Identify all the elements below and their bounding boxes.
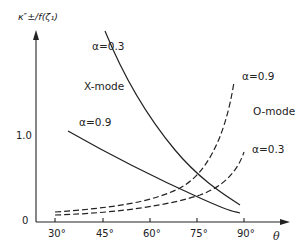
series-x-mode-alpha-0.3 xyxy=(105,31,240,205)
series-x-mode-alpha-0.9 xyxy=(68,131,240,213)
x-tick-label-60: 60° xyxy=(143,229,161,239)
y-axis-label: κ″±/f(ζ₁) xyxy=(18,12,58,22)
y-tick-label-1.0: 1.0 xyxy=(16,131,32,141)
chart-plot xyxy=(0,0,307,252)
annotation-o-alpha-0.9: α=0.9 xyxy=(242,71,274,82)
axes xyxy=(33,30,290,225)
x-axis-arrow-icon xyxy=(280,219,290,225)
x-axis-label: θ xyxy=(273,231,280,242)
annotation-o-mode: O-mode xyxy=(253,106,295,117)
y-tick-label-0: 0 xyxy=(22,216,28,226)
annotation-x-alpha-0.3: α=0.3 xyxy=(92,41,124,52)
y-axis-arrow-icon xyxy=(33,30,39,40)
x-tick-label-45: 45° xyxy=(96,229,114,239)
annotation-o-alpha-0.3: α=0.3 xyxy=(252,144,284,155)
series-o-mode-alpha-0.3 xyxy=(55,152,244,215)
x-tick-label-90: 90° xyxy=(237,229,255,239)
annotation-x-alpha-0.9: α=0.9 xyxy=(79,117,111,128)
annotation-x-mode: X-mode xyxy=(84,81,124,92)
x-tick-label-75: 75° xyxy=(190,229,208,239)
x-tick-label-30: 30° xyxy=(48,229,66,239)
